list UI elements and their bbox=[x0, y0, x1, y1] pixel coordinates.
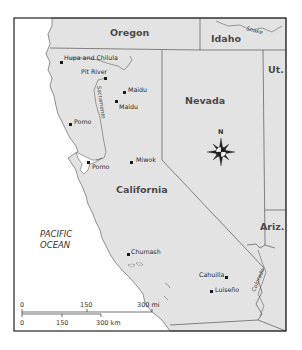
compass-north-label: N bbox=[218, 128, 223, 136]
scale-mi-150: 150 bbox=[80, 301, 92, 309]
marker-maidu-2 bbox=[115, 100, 118, 103]
marker-maidu-1 bbox=[123, 91, 126, 94]
state-label-idaho: Idaho bbox=[211, 33, 242, 44]
tribe-label-hupa-chilula: Hupa and Chilula bbox=[64, 54, 118, 62]
tribe-label-maidu-1: Maidu bbox=[128, 86, 147, 93]
tribe-label-miwok: Miwok bbox=[136, 156, 156, 163]
marker-chumash bbox=[127, 253, 130, 256]
tribe-label-pomo-1: Pomo bbox=[74, 118, 92, 125]
ocean-label-line1: PACIFIC bbox=[40, 229, 72, 239]
state-label-oregon: Oregon bbox=[110, 27, 150, 38]
scale-km-150: 150 bbox=[56, 319, 68, 327]
scale-mi-0: 0 bbox=[20, 301, 24, 309]
tribe-label-pit-river: Pit River bbox=[81, 68, 108, 75]
state-label-utah: Ut. bbox=[268, 64, 284, 75]
tribe-label-cahuilla: Cahuilla bbox=[199, 271, 224, 278]
state-label-arizona: Ariz. bbox=[260, 221, 284, 232]
marker-luiseno bbox=[210, 290, 213, 293]
marker-pit-river bbox=[104, 77, 107, 80]
tribe-label-pomo-2: Pomo bbox=[92, 163, 110, 170]
scale-km-0: 0 bbox=[20, 319, 24, 327]
scale-km-300: 300 km bbox=[96, 319, 121, 327]
map: Oregon Idaho Nevada Ut. California Ariz.… bbox=[0, 0, 302, 350]
marker-pomo-2 bbox=[87, 161, 90, 164]
tribe-label-chumash: Chumash bbox=[131, 248, 161, 255]
scale-mi-300: 300 mi bbox=[137, 301, 160, 309]
marker-pomo-1 bbox=[69, 123, 72, 126]
marker-miwok bbox=[130, 161, 133, 164]
tribe-label-luiseno: Luiseño bbox=[215, 286, 239, 293]
marker-hupa-chilula bbox=[60, 61, 63, 64]
state-label-california: California bbox=[116, 184, 168, 195]
tribe-label-maidu-2: Maidu bbox=[119, 103, 138, 110]
marker-cahuilla bbox=[225, 276, 228, 279]
ocean-label-line2: OCEAN bbox=[40, 240, 71, 250]
state-label-nevada: Nevada bbox=[185, 95, 225, 106]
